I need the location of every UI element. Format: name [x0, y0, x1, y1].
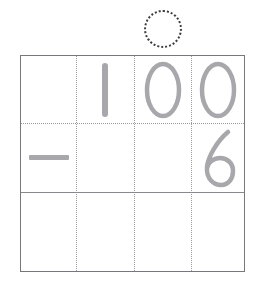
cell-r3-c1[interactable]: [21, 192, 76, 272]
grid-cells: [21, 56, 244, 271]
cell-r1-c3[interactable]: [134, 56, 191, 123]
cell-r1-c4[interactable]: [191, 56, 245, 123]
digit-one-glyph: [92, 62, 118, 118]
cell-r2-c3[interactable]: [134, 123, 191, 192]
digit-zero-glyph: [198, 61, 238, 119]
cell-r1-c2[interactable]: [76, 56, 134, 123]
digit-six-glyph: [198, 127, 238, 189]
cell-r2-c1[interactable]: [21, 123, 76, 192]
cell-r3-c4[interactable]: [191, 192, 245, 272]
cell-r3-c2[interactable]: [76, 192, 134, 272]
cell-r2-c4[interactable]: [191, 123, 245, 192]
subtraction-worksheet: [0, 0, 259, 282]
dotted-circle-icon: [144, 10, 182, 48]
minus-sign-icon: [29, 155, 69, 160]
cell-r2-c2[interactable]: [76, 123, 134, 192]
cell-r1-c1[interactable]: [21, 56, 76, 123]
digit-zero-glyph: [143, 61, 183, 119]
place-value-grid: [20, 55, 245, 272]
cell-r3-c3[interactable]: [134, 192, 191, 272]
